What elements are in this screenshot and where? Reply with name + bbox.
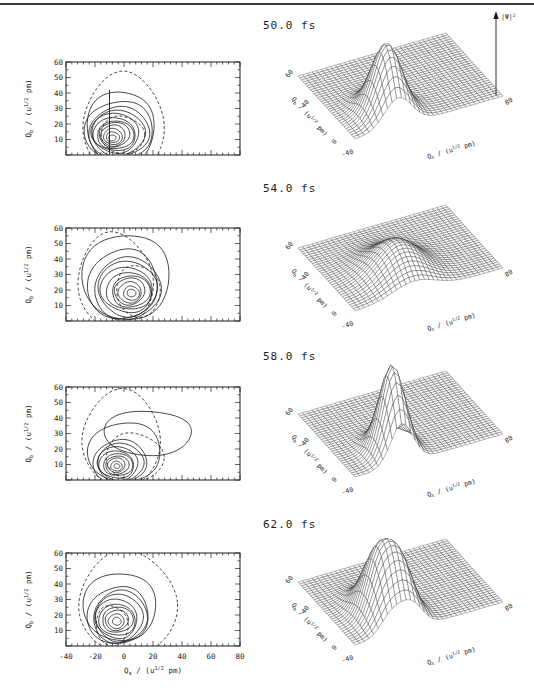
wireframe-mesh (298, 365, 503, 477)
qb-tick-60: 60 (284, 240, 295, 251)
figure-page: 50.0 fs 54.0 fs 58.0 fs 62.0 fs 10203040… (0, 0, 534, 696)
y-tick-label: 60 (54, 383, 64, 392)
surface-svg: -400406080Qb / (u1/2 pm)Qs / (u1/2 pm)|Ψ… (260, 8, 534, 180)
y-tick-label: 30 (54, 270, 64, 279)
qb-tick-60: 60 (284, 406, 295, 417)
contour-plot-frame3: 102030405060Qb / (u1/2 pm) (20, 365, 255, 490)
contour-line (108, 614, 124, 629)
contour-line (105, 610, 128, 631)
x-tick-label: 40 (177, 652, 187, 661)
contour-line (95, 599, 137, 639)
qs-start-tick: -40 (341, 148, 354, 159)
contour-line (111, 461, 123, 471)
x-tick-label: 80 (235, 652, 245, 661)
contour-svg: 102030405060Qb / (u1/2 pm) (20, 365, 255, 490)
y-tick-label: 50 (54, 239, 64, 248)
wireframe-mesh (298, 205, 503, 311)
y-tick-label: 40 (54, 580, 64, 589)
y-tick-label: 50 (54, 564, 64, 573)
x-tick-label: -20 (88, 652, 102, 661)
y-tick-label: 10 (54, 301, 64, 310)
y_axis-label: Qb / (u1/2 pm) (23, 246, 33, 304)
y-tick-label: 60 (54, 58, 64, 67)
contour-plot-frame1: 102030405060Qb / (u1/2 pm) (20, 40, 255, 165)
surface-plot-frame4: -400406080Qb / (u1/2 pm)Qs / (u1/2 pm) (260, 514, 534, 686)
y-tick-label: 10 (54, 626, 64, 635)
y-tick-label: 20 (54, 120, 64, 129)
qb-tick-0: 0 (330, 310, 339, 318)
surface-svg: -400406080Qb / (u1/2 pm)Qs / (u1/2 pm) (260, 514, 534, 686)
surface-plot-frame2: -400406080Qb / (u1/2 pm)Qs / (u1/2 pm) (260, 180, 534, 352)
qs-start-tick: -40 (341, 654, 354, 665)
y-tick-label: 40 (54, 255, 64, 264)
x-tick-label: -40 (59, 652, 73, 661)
qb-tick-0: 0 (330, 138, 339, 146)
wireframe-mesh (298, 33, 503, 139)
contour-svg: 102030405060Qb / (u1/2 pm) (20, 206, 255, 331)
y-tick-label: 30 (54, 104, 64, 113)
x-tick-label: 60 (206, 652, 216, 661)
qb-tick-60: 60 (284, 574, 295, 585)
y-tick-label: 20 (54, 611, 64, 620)
contour-line (114, 464, 120, 469)
surface-svg: -400406080Qb / (u1/2 pm)Qs / (u1/2 pm) (260, 346, 534, 518)
y-tick-label: 50 (54, 73, 64, 82)
contour-plot-frame4: 102030405060Qb / (u1/2 pm)-40-2002040608… (20, 531, 255, 691)
y_axis-label: Qb / (u1/2 pm) (23, 571, 33, 629)
qs-end-tick: 80 (503, 268, 514, 279)
y-tick-label: 60 (54, 549, 64, 558)
contour-svg: 102030405060Qb / (u1/2 pm)-40-2002040608… (20, 531, 255, 681)
y-tick-label: 50 (54, 398, 64, 407)
qb-tick-0: 0 (330, 644, 339, 652)
y-tick-label: 10 (54, 135, 64, 144)
contour-line (127, 289, 136, 296)
y-tick-label: 60 (54, 224, 64, 233)
x_axis-label: Qs / (u1/2 pm) (426, 645, 477, 667)
y-tick-label: 20 (54, 286, 64, 295)
qs-start-tick: -40 (341, 320, 354, 331)
y-tick-label: 40 (54, 414, 64, 423)
qs-end-tick: 80 (503, 434, 514, 445)
surface-svg: -400406080Qb / (u1/2 pm)Qs / (u1/2 pm) (260, 180, 534, 352)
contour-line (112, 617, 121, 625)
wireframe-mesh (298, 539, 503, 645)
y-tick-label: 30 (54, 595, 64, 604)
y-tick-label: 40 (54, 89, 64, 98)
contour-svg: 102030405060Qb / (u1/2 pm) (20, 40, 255, 165)
contour-line (104, 411, 191, 455)
surface-plot-frame3: -400406080Qb / (u1/2 pm)Qs / (u1/2 pm) (260, 346, 534, 518)
qs-start-tick: -40 (341, 486, 354, 497)
qs-end-tick: 80 (503, 602, 514, 613)
x_axis-label: Qs / (u1/2 pm) (426, 139, 477, 161)
qb-tick-0: 0 (330, 476, 339, 484)
y-tick-label: 10 (54, 460, 64, 469)
y_axis-label: Qb / (u1/2 pm) (23, 80, 33, 138)
contour-line (124, 286, 140, 300)
page-header-rule (0, 3, 534, 5)
z-axis-arrowhead (493, 11, 498, 19)
x_axis-label: Qs / (u1/2 pm) (426, 311, 477, 333)
contour-plot-frame2: 102030405060Qb / (u1/2 pm) (20, 206, 255, 331)
x_axis-label: Qs / (u1/2 pm) (426, 477, 477, 499)
y-tick-label: 30 (54, 429, 64, 438)
y_axis-label: Qb / (u1/2 pm) (23, 405, 33, 463)
qs-end-tick: 80 (503, 96, 514, 107)
x-tick-label: 20 (148, 652, 158, 661)
contour-line (93, 439, 147, 483)
qb-tick-60: 60 (284, 68, 295, 79)
contour-line (106, 456, 129, 474)
x_axis-label: Qs / (u1/2 pm) (124, 665, 182, 675)
psi-squared-label: |Ψ|2 (501, 13, 516, 21)
y-tick-label: 20 (54, 445, 64, 454)
surface-plot-frame1: -400406080Qb / (u1/2 pm)Qs / (u1/2 pm)|Ψ… (260, 8, 534, 180)
x-tick-label: 0 (122, 652, 127, 661)
